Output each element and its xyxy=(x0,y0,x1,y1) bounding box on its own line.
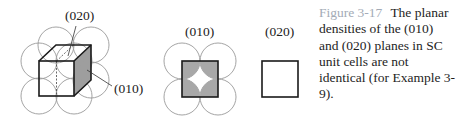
callout-label-020: (020) xyxy=(65,9,94,23)
figure-illustration xyxy=(0,0,310,120)
plane-020-view xyxy=(262,61,298,97)
callout-label-010: (010) xyxy=(114,82,143,96)
unit-cell-3d xyxy=(21,26,112,114)
atoms xyxy=(21,27,109,114)
panel-title-020: (020) xyxy=(265,25,294,39)
panel-title-010: (010) xyxy=(185,25,214,39)
figure-caption: Figure 3-17The planar densities of the (… xyxy=(319,5,456,103)
figure-number: Figure 3-17 xyxy=(319,5,382,20)
plane-010-view xyxy=(164,43,236,115)
